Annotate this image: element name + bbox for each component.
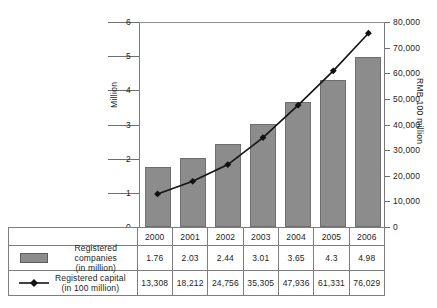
legend-label-unit: (in 100 million) — [55, 283, 126, 293]
left-axis-tick — [108, 159, 139, 160]
right-axis-tick — [385, 22, 390, 23]
plot-area — [139, 22, 385, 227]
right-axis-tick-label: 20,000 — [393, 171, 420, 181]
left-axis-tick-label: 4 — [126, 85, 131, 95]
left-axis-tick-label: 6 — [126, 17, 131, 27]
right-axis-tick-label: 70,000 — [393, 43, 420, 53]
cell-line-marker-2003: 35,305 — [243, 271, 278, 296]
combo-chart-figure: 0123456 Million 010,00020,00030,00040,00… — [0, 0, 437, 308]
left-axis-title: Million — [109, 82, 119, 108]
cell-line-marker-2005: 61,331 — [314, 271, 349, 296]
cell-bar-swatch-2000: 1.76 — [137, 246, 172, 271]
year-header-2004: 2004 — [278, 228, 313, 246]
cell-line-marker-2006: 76,029 — [349, 271, 384, 296]
legend-line-marker-icon — [17, 277, 51, 289]
left-axis-tick — [108, 125, 139, 126]
capital-marker-2001 — [189, 178, 196, 185]
year-header-2003: 2003 — [243, 228, 278, 246]
left-axis-tick-label: 3 — [126, 120, 131, 130]
right-axis-tick — [385, 227, 390, 228]
year-header-2005: 2005 — [314, 228, 349, 246]
year-header-2002: 2002 — [208, 228, 243, 246]
legend-bar-swatch-icon — [20, 253, 48, 263]
left-axis-tick — [108, 22, 139, 23]
left-axis-tick-label: 2 — [126, 154, 131, 164]
cell-line-marker-2001: 18,212 — [172, 271, 207, 296]
right-axis-tick — [385, 48, 390, 49]
cell-bar-swatch-2003: 3.01 — [243, 246, 278, 271]
right-axis-tick-label: 10,000 — [393, 196, 420, 206]
legend-label-line-marker: Registered capital(in 100 million) — [55, 273, 126, 293]
legend-label-unit: (in million) — [55, 263, 137, 273]
cell-line-marker-2000: 13,308 — [137, 271, 172, 296]
legend-cell-line-marker: Registered capital(in 100 million) — [9, 271, 138, 296]
legend-label-primary: Registered companies — [55, 243, 137, 263]
right-axis-tick — [385, 73, 390, 74]
cell-bar-swatch-2006: 4.98 — [349, 246, 384, 271]
capital-marker-group — [154, 30, 372, 198]
cell-bar-swatch-2002: 2.44 — [208, 246, 243, 271]
left-axis-tick-label: 1 — [126, 188, 131, 198]
cell-line-marker-2004: 47,936 — [278, 271, 313, 296]
right-axis-tick — [385, 99, 390, 100]
right-axis-tick — [385, 176, 390, 177]
right-axis-tick — [385, 125, 390, 126]
data-table: 2000200120022003200420052006Registered c… — [8, 227, 385, 296]
table-row: Registered companies(in million)1.762.03… — [9, 246, 385, 271]
right-axis-tick-label: 80,000 — [393, 17, 420, 27]
left-axis-tick — [108, 193, 139, 194]
right-axis-title: RMB 100 million — [415, 78, 425, 144]
cell-bar-swatch-2001: 2.03 — [172, 246, 207, 271]
left-value-axis: 0123456 — [108, 22, 139, 227]
right-axis-tick-label: 60,000 — [393, 68, 420, 78]
cell-bar-swatch-2005: 4.3 — [314, 246, 349, 271]
right-axis-tick — [385, 150, 390, 151]
left-axis-tick-label: 5 — [126, 51, 131, 61]
right-axis-tick-label: 0 — [393, 222, 398, 232]
right-axis-tick — [385, 201, 390, 202]
left-axis-tick — [108, 56, 139, 57]
right-value-axis: 010,00020,00030,00040,00050,00060,00070,… — [385, 22, 437, 227]
legend-label-bar-swatch: Registered companies(in million) — [55, 243, 137, 273]
legend-label-primary: Registered capital — [55, 273, 126, 283]
cell-line-marker-2002: 24,756 — [208, 271, 243, 296]
line-series-registered-capital — [140, 23, 386, 228]
cell-bar-swatch-2004: 3.65 — [278, 246, 313, 271]
capital-marker-2000 — [154, 190, 161, 197]
year-header-2006: 2006 — [349, 228, 384, 246]
right-axis-tick-label: 30,000 — [393, 145, 420, 155]
table-row: Registered capital(in 100 million)13,308… — [9, 271, 385, 296]
capital-line-path — [158, 33, 369, 194]
year-header-2000: 2000 — [137, 228, 172, 246]
year-header-2001: 2001 — [172, 228, 207, 246]
legend-cell-bar-swatch: Registered companies(in million) — [9, 246, 138, 271]
